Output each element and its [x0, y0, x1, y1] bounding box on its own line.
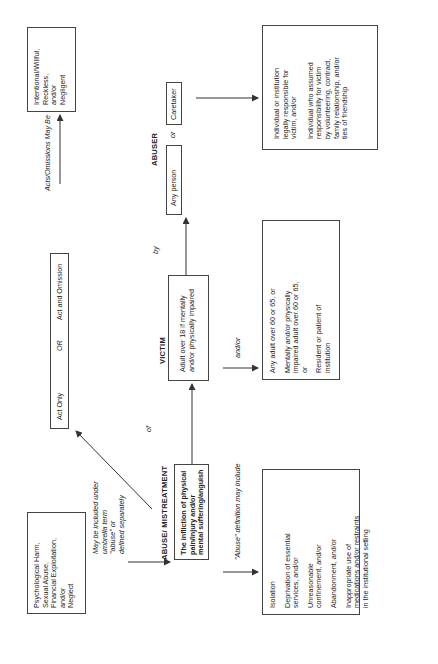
abuse-includes-list: Isolation Deprivation of essential servi…	[269, 516, 376, 608]
item-line: victim, and/or	[290, 57, 299, 139]
intent-line: Negligent	[59, 49, 68, 105]
acts-omissions-label: Acts/Omissions May Be	[44, 115, 53, 191]
victim-detail-item: Mentally and/or physically impaired adul…	[284, 282, 310, 374]
any-person-box: Any person	[166, 145, 182, 215]
abuser-details-list: Individual or institution legally respon…	[273, 57, 356, 139]
elder-abuse-definition-diagram: Psychological Harm, Sexual Abuse, Financ…	[0, 0, 438, 664]
victim-andor-label: and/or	[234, 338, 243, 358]
abuse-include-label: "Abuse" definition may include	[234, 463, 243, 560]
abuse-heading: ABUSE/ MISTREATMENT	[160, 466, 169, 560]
item-line: or	[301, 282, 310, 374]
abuser-details-box: Individual or institution legally respon…	[262, 25, 378, 150]
abuse-include-item: Inappropriate use of medications and/or …	[345, 516, 371, 608]
item-line: confinement, and/or	[315, 516, 324, 608]
abuse-definition-box: The infliction of physical pain/injury a…	[174, 464, 209, 560]
abuse-includes-box: Isolation Deprivation of essential servi…	[262, 469, 360, 615]
victim-details-box: Any adult over 60 or 65, or Mentally and…	[262, 220, 340, 380]
note-line: defined separately	[118, 481, 127, 554]
abuser-detail-item: Individual who assumed responsibility fo…	[307, 57, 350, 139]
item-line: institution	[324, 282, 333, 374]
any-person-label: Any person	[170, 170, 179, 206]
victim-detail-item: Any adult over 60 or 65, or	[269, 282, 278, 374]
victim-definition-box: Adult over 18 if mentally and/or physica…	[168, 275, 209, 381]
abuser-or-label: or	[169, 132, 178, 138]
intent-text: Intentional/Willful, Reckless, and/or Ne…	[33, 49, 67, 105]
caretaker-box: Caretaker	[166, 82, 182, 125]
abuse-include-item: Deprivation of essential services, and/o…	[284, 516, 301, 608]
caretaker-label: Caretaker	[170, 88, 179, 120]
by-label: by	[152, 246, 161, 254]
of-label: of	[145, 426, 154, 432]
item-line: services, and/or	[292, 516, 301, 608]
item-line: in the institutional setting	[362, 516, 371, 608]
victim-detail-item: Resident or patient of institution	[315, 282, 332, 374]
abuser-detail-item: Individual or institution legally respon…	[273, 57, 299, 139]
related-harms-text: Psychological Harm, Sexual Abuse, Financ…	[33, 538, 76, 608]
item-line: impaired adult over 60 or 65,	[292, 282, 301, 374]
act-type-box: Act Only OR Act and Omission	[50, 253, 69, 429]
item-line: ties of friendship	[341, 57, 350, 139]
act-only-label: Act Only	[56, 393, 65, 420]
item-line: Any adult over 60 or 65, or	[269, 282, 278, 374]
victim-definition-line: and/or physically impaired	[188, 289, 197, 372]
abuse-include-item: Abandonment, and/or	[330, 516, 339, 608]
item-line: Abandonment, and/or	[330, 516, 339, 608]
intent-box: Intentional/Willful, Reckless, and/or Ne…	[27, 27, 76, 112]
victim-heading: VICTIM	[158, 337, 167, 364]
act-or-label: OR	[56, 340, 65, 351]
victim-details-list: Any adult over 60 or 65, or Mentally and…	[269, 282, 339, 374]
related-harms-line: Neglect	[67, 538, 76, 608]
abuse-include-item: Unreasonable confinement, and/or	[307, 516, 324, 608]
abuse-definition-line: mental suffering/anguish	[197, 470, 206, 555]
abuser-heading: ABUSER	[150, 133, 159, 166]
related-harms-box: Psychological Harm, Sexual Abuse, Financ…	[27, 512, 86, 614]
related-harms-note: May be included under umbrella term "abu…	[92, 481, 126, 554]
abuse-definition-text: The infliction of physical pain/injury a…	[180, 470, 206, 555]
abuse-include-item: Isolation	[269, 516, 278, 608]
act-and-omission-label: Act and Omission	[56, 264, 65, 320]
item-line: Isolation	[269, 516, 278, 608]
victim-definition-text: Adult over 18 if mentally and/or physica…	[179, 289, 196, 372]
